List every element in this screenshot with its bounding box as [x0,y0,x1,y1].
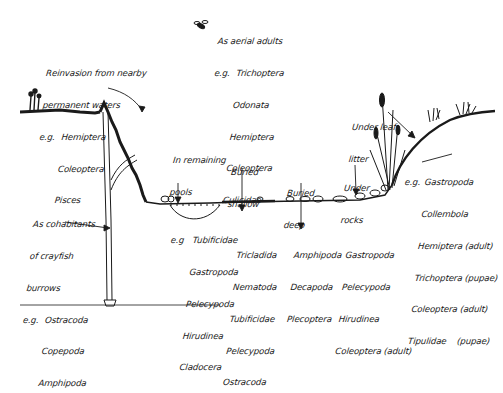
eg-label: e.g. [214,68,237,79]
crayfish-heading-1: As cohabitants [33,219,115,230]
reinvasion-heading-1: Reinvasion from nearby [46,68,148,79]
litter-heading-2: litter [348,154,393,165]
taxon: Decapoda [290,282,339,293]
taxon: Hemiptera (adult) [398,241,502,252]
label-under-leaf-litter-taxa: e.g.Gastropoda Collembola Hemiptera (adu… [386,156,503,357]
shallow-heading-1: Buried [231,167,264,178]
eg-label: e.g [170,235,193,246]
insect-icon [194,21,208,30]
aerial-heading: As aerial adults [217,36,288,47]
eg-label: e.g. [23,315,46,326]
taxon: Amphipoda [293,250,342,261]
pools-heading-2: pools [169,187,223,198]
taxon: Tubificidae [192,235,238,246]
taxon: Ostracoda [45,315,89,326]
left-bank-plant-icon [29,89,41,110]
taxon: Pelecypoda [226,346,322,357]
eg-label: e.g. [39,132,62,143]
taxon: Copepoda [19,346,101,357]
taxon: Hemiptera [61,132,107,143]
taxon: Odonata [211,100,282,111]
crayfish-heading-3: burrows [26,283,108,294]
pools-heading-1: In remaining [173,155,227,166]
rocks-heading-1: Under [344,183,371,194]
taxon: Collembola [401,209,503,220]
taxon: Trichoptera [236,68,285,79]
taxon: Coleoptera [36,164,138,175]
taxon: Amphipoda [16,378,98,389]
taxon: Gastropoda [424,177,474,188]
eg-label: e.g. [404,177,425,188]
taxon: Coleoptera (adult) [391,304,495,315]
litter-heading-1: Under leaf [352,122,397,133]
label-reinvasion: Reinvasion from nearby permanent waters … [31,47,149,217]
taxon: Trichoptera (pupae) [394,273,498,284]
crayfish-heading-2: of crayfish [29,251,111,262]
taxon: Ostracoda [223,377,319,388]
taxon: Tipulidae (pupae) [388,336,492,347]
deep-heading-1: Buried [287,188,316,199]
shallow-heading-2: shallow [227,199,260,210]
rocks-heading-2: rocks [340,215,367,226]
taxon: Plecoptera [287,314,336,325]
reinvasion-heading-2: permanent waters [42,100,144,111]
label-remaining-pools-heading: In remaining pools [168,134,229,208]
label-under-leaf-litter-heading: Under leaf litter [347,101,399,175]
